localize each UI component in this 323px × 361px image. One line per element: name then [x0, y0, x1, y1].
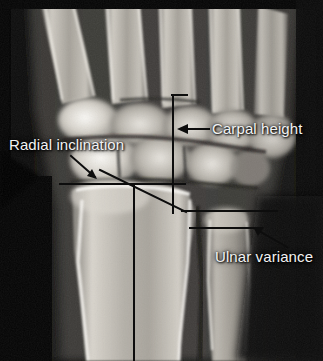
- annotation-label-ulnar-variance: Ulnar variance: [215, 249, 313, 265]
- xray-image: [0, 0, 323, 361]
- wrist-radiograph-figure: Radial inclination Carpal height Ulnar v…: [0, 0, 323, 361]
- annotation-label-carpal-height: Carpal height: [212, 121, 303, 137]
- film-grain: [0, 0, 323, 361]
- annotation-label-radial-inclination: Radial inclination: [9, 137, 124, 153]
